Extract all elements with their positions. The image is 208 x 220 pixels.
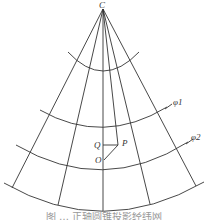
graticule-diagram: C φ1 φ2 Q P O [0,0,208,220]
point-p-label: P [121,138,128,148]
parallel-phi1 [40,107,167,127]
parallel-top [68,52,139,71]
line-p-o [104,145,118,160]
parallel-phi2 [16,142,188,170]
phi1-label: φ1 [173,97,182,107]
point-o-label: O [95,155,102,165]
parallel-bottom [4,182,204,211]
line-c-p [103,9,118,145]
meridian-4 [103,9,150,204]
phi1-leader [165,104,172,109]
apex-label: C [99,0,106,10]
point-q-label: Q [94,140,101,150]
figure-caption: 图 … 正轴圆锥投影经纬网 [0,212,208,220]
meridian-2 [58,9,103,205]
phi2-label: φ2 [191,132,201,142]
meridian-1 [12,9,103,188]
